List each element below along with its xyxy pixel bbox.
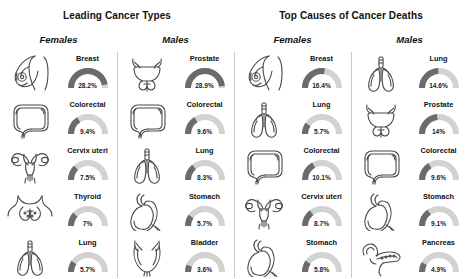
chart-row: Stomach 5.7%: [117, 188, 234, 234]
chart-row: Cervix uteri 7.5%: [0, 142, 117, 188]
pancreas-icon: [353, 235, 409, 279]
colon-icon: [236, 143, 292, 187]
bladder-icon: [119, 235, 175, 279]
cancer-type-label: Stomach: [423, 193, 454, 200]
percentage-value: 9.6%: [413, 175, 465, 182]
chart-row: Stomach 9.1%: [351, 188, 468, 234]
percentage-gauge: 9.6%: [179, 110, 231, 137]
gauge-group: Lung 5.7%: [58, 239, 117, 274]
percentage-value: 3.6%: [179, 267, 231, 274]
chart-row: Lung 14.6%: [351, 50, 468, 96]
gauge-group: Lung 8.3%: [175, 147, 234, 182]
percentage-value: 5.7%: [296, 129, 348, 136]
uterus-icon: [2, 143, 58, 187]
cancer-type-label: Breast: [310, 55, 333, 62]
percentage-value: 28.9%: [179, 83, 231, 90]
section-title-left-wrap: Leading Cancer Types: [0, 5, 234, 23]
chart-row: Lung 5.7%: [234, 96, 351, 142]
stomach-icon: [353, 189, 409, 233]
chart-row: Thyroid 7%: [0, 188, 117, 234]
gauge-group: Stomach 5.8%: [292, 239, 351, 274]
cancer-type-label: Lung: [429, 55, 447, 62]
percentage-value: 9.4%: [62, 129, 114, 136]
cancer-type-label: Cervix uteri: [67, 147, 108, 154]
gauge-group: Lung 14.6%: [409, 55, 468, 90]
chart-row: Colorectal 10.1%: [234, 142, 351, 188]
percentage-value: 5.7%: [62, 267, 114, 274]
column-males-deaths: Lung 14.6% Prostate 14% C: [351, 50, 468, 279]
lungs-icon: [2, 235, 58, 279]
chart-row: Colorectal 9.6%: [351, 142, 468, 188]
gauge-group: Breast 16.4%: [292, 55, 351, 90]
percentage-gauge: 5.8%: [296, 248, 348, 275]
percentage-gauge: 4.9%: [413, 248, 465, 275]
percentage-value: 4.9%: [413, 267, 465, 274]
gauge-group: Stomach 5.7%: [175, 193, 234, 228]
percentage-value: 14.6%: [413, 83, 465, 90]
chart-row: Stomach 5.8%: [234, 234, 351, 279]
colon-icon: [119, 97, 175, 141]
cancer-type-label: Stomach: [189, 193, 220, 200]
percentage-value: 8.3%: [179, 175, 231, 182]
section-title-leading-cancer-types: Leading Cancer Types: [63, 10, 171, 21]
section-title-top-causes-of-cancer-deaths: Top Causes of Cancer Deaths: [279, 10, 423, 21]
gauge-group: Breast 28.2%: [58, 55, 117, 90]
chart-row: Cervix uteri 8.7%: [234, 188, 351, 234]
sex-subtitle-males-types: Males: [162, 34, 188, 45]
cancer-type-label: Lung: [78, 239, 96, 246]
percentage-gauge: 9.4%: [62, 110, 114, 137]
percentage-value: 28.2%: [62, 83, 114, 90]
chart-row: Bladder 3.6%: [117, 234, 234, 279]
chart-row: Breast 16.4%: [234, 50, 351, 96]
gauge-group: Bladder 3.6%: [175, 239, 234, 274]
cancer-type-label: Colorectal: [420, 147, 456, 154]
percentage-gauge: 5.7%: [179, 202, 231, 229]
column-females-types: Breast 28.2% Colorectal 9.4%: [0, 50, 117, 279]
gauge-group: Colorectal 9.4%: [58, 101, 117, 136]
percentage-value: 9.6%: [179, 129, 231, 136]
percentage-value: 5.8%: [296, 267, 348, 274]
stomach-icon: [236, 235, 292, 279]
gauge-group: Stomach 9.1%: [409, 193, 468, 228]
cancer-type-label: Lung: [195, 147, 213, 154]
percentage-value: 10.1%: [296, 175, 348, 182]
cancer-type-label: Cervix uteri: [301, 193, 342, 200]
gauge-group: Prostate 28.9%: [175, 55, 234, 90]
cancer-type-label: Prostate: [424, 101, 454, 108]
chart-row: Prostate 28.9%: [117, 50, 234, 96]
percentage-value: 8.7%: [296, 221, 348, 228]
percentage-gauge: 3.6%: [179, 248, 231, 275]
sex-subtitle-females-types: Females: [39, 34, 77, 45]
gauge-group: Colorectal 9.6%: [175, 101, 234, 136]
percentage-gauge: 28.9%: [179, 64, 231, 91]
gauge-group: Cervix uteri 7.5%: [58, 147, 117, 182]
percentage-gauge: 8.3%: [179, 156, 231, 183]
lungs-icon: [353, 51, 409, 95]
percentage-value: 9.1%: [413, 221, 465, 228]
percentage-gauge: 5.7%: [296, 110, 348, 137]
gauge-group: Prostate 14%: [409, 101, 468, 136]
cancer-type-label: Pancreas: [422, 239, 455, 246]
cancer-type-label: Colorectal: [186, 101, 222, 108]
gauge-group: Pancreas 4.9%: [409, 239, 468, 274]
chart-row: Pancreas 4.9%: [351, 234, 468, 279]
sex-subtitles: Females Males Females Males: [0, 29, 468, 47]
infographic-root: Leading Cancer Types Top Causes of Cance…: [0, 0, 468, 279]
chart-row: Breast 28.2%: [0, 50, 117, 96]
cancer-type-label: Prostate: [190, 55, 220, 62]
percentage-gauge: 14%: [413, 110, 465, 137]
percentage-gauge: 7%: [62, 202, 114, 229]
cancer-type-label: Lung: [312, 101, 330, 108]
percentage-gauge: 16.4%: [296, 64, 348, 91]
percentage-value: 14%: [413, 129, 465, 136]
column-males-types: Prostate 28.9% Colorectal 9.6%: [117, 50, 234, 279]
cancer-type-label: Colorectal: [303, 147, 339, 154]
cancer-type-label: Thyroid: [74, 193, 101, 200]
chart-row: Lung 5.7%: [0, 234, 117, 279]
thyroid-icon: [2, 189, 58, 233]
percentage-value: 16.4%: [296, 83, 348, 90]
column-females-deaths: Breast 16.4% Lung 5.7% Co: [234, 50, 351, 279]
section-titles: Leading Cancer Types Top Causes of Cance…: [0, 0, 468, 23]
breast-icon: [236, 51, 292, 95]
gauge-group: Colorectal 10.1%: [292, 147, 351, 182]
